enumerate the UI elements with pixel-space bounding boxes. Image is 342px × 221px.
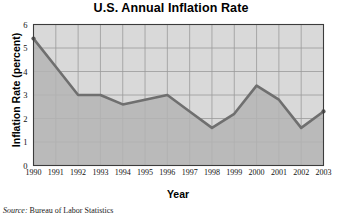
y-tick-label: 1: [14, 137, 28, 147]
x-tick-label: 1993: [88, 168, 112, 177]
x-tick-label: 2000: [245, 168, 269, 177]
x-tick-label: 1996: [155, 168, 179, 177]
y-tick-label: 5: [14, 43, 28, 53]
x-tick-label: 1998: [200, 168, 224, 177]
source-prefix: Source:: [3, 206, 28, 215]
source-note: Source: Bureau of Labor Statistics: [3, 206, 113, 215]
y-tick-label: 4: [14, 67, 28, 77]
x-tick-label: 1990: [22, 168, 46, 177]
x-tick-label: 1994: [111, 168, 135, 177]
x-tick-label: 2002: [289, 168, 313, 177]
y-tick-label: 2: [14, 114, 28, 124]
x-tick-label: 1992: [66, 168, 90, 177]
x-tick-label: 1995: [133, 168, 157, 177]
y-tick-label: 6: [14, 20, 28, 30]
chart-figure: U.S. Annual Inflation Rate Inflation Rat…: [0, 0, 342, 221]
y-tick-label: 3: [14, 90, 28, 100]
source-text: Bureau of Labor Statistics: [30, 206, 114, 215]
x-tick-label: 2001: [267, 168, 291, 177]
x-tick-label: 2003: [312, 168, 336, 177]
x-axis-title: Year: [33, 188, 323, 200]
x-tick-label: 1997: [178, 168, 202, 177]
x-tick-label: 1999: [222, 168, 246, 177]
x-tick-label: 1991: [44, 168, 68, 177]
